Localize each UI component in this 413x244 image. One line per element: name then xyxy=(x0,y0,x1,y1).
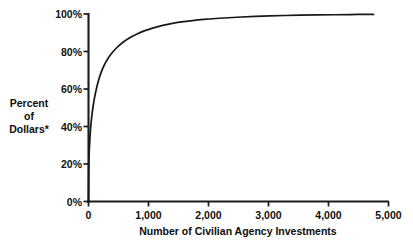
y-axis-title: Percent of Dollars* xyxy=(0,97,58,136)
chart-container: 100% 80% 60% 40% 20% 0% 0 1,000 2,000 3,… xyxy=(0,0,413,244)
y-tick-label-60: 60% xyxy=(38,83,82,95)
x-tick-label-3000: 3,000 xyxy=(255,209,281,221)
x-tick-label-1000: 1,000 xyxy=(135,209,161,221)
y-axis-title-line-2: of xyxy=(0,110,58,123)
x-tick-label-2000: 2,000 xyxy=(195,209,221,221)
y-axis-title-line-1: Percent xyxy=(0,97,58,110)
x-tick-label-5000: 5,000 xyxy=(375,209,401,221)
y-tick-label-100: 100% xyxy=(38,8,82,20)
x-tick-label-4000: 4,000 xyxy=(315,209,341,221)
y-axis-title-line-3: Dollars* xyxy=(0,123,58,136)
x-tick-label-0: 0 xyxy=(86,209,92,221)
x-axis-title: Number of Civilian Agency Investments xyxy=(88,225,388,237)
y-tick-label-20: 20% xyxy=(38,158,82,170)
y-tick-label-80: 80% xyxy=(38,46,82,58)
data-series-cumulative-percent xyxy=(89,14,374,201)
y-tick-label-0: 0% xyxy=(38,196,82,208)
